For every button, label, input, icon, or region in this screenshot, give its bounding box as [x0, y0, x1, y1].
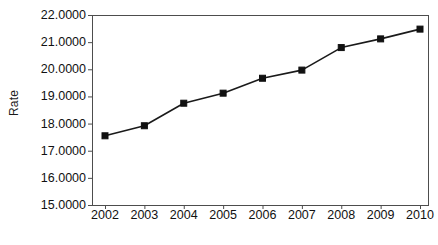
plot-area — [0, 0, 438, 245]
y-axis-ticks — [88, 16, 92, 206]
chart-figure: Rate 22.000021.000020.000019.000018.0000… — [0, 0, 438, 245]
axis-frame — [93, 16, 429, 206]
